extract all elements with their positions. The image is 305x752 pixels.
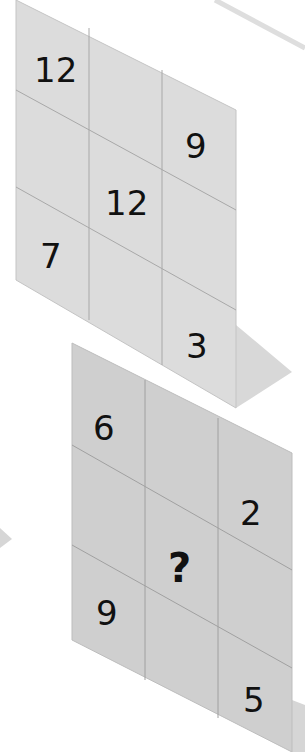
bottom-cell-2-2: 5 [243, 680, 265, 720]
top-cell-2-0: 7 [40, 236, 62, 276]
bottom-grid-shadow [292, 700, 305, 752]
top-cell-2-2: 3 [186, 326, 208, 366]
bottom-cell-2-0: 9 [96, 593, 118, 633]
top-cell-0-0: 12 [34, 50, 77, 90]
bottom-cell-question-mark: ? [168, 545, 191, 591]
bottom-grid: 6 2 ? 9 5 [72, 343, 292, 752]
top-grid-shadow [236, 325, 292, 408]
bottom-cell-0-0: 6 [93, 408, 115, 448]
bottom-cell-1-2: 2 [240, 493, 262, 533]
top-cell-1-1: 12 [105, 183, 148, 223]
top-cell-1-2: 9 [185, 126, 207, 166]
side-shadow [0, 528, 12, 548]
puzzle-canvas: 12 12 9 7 3 6 2 ? 9 5 [0, 0, 305, 752]
top-grid: 12 12 9 7 3 [16, 0, 236, 408]
decorative-streak [215, 0, 305, 48]
